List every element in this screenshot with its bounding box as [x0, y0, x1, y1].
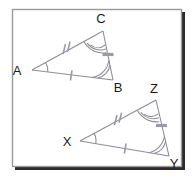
vertex-label-a: A — [13, 63, 22, 78]
geometry-figure: A B C — [0, 0, 194, 180]
vertex-label-y: Y — [170, 156, 179, 171]
vertex-label-z: Z — [150, 81, 158, 96]
vertex-label-c: C — [96, 11, 105, 26]
vertex-label-x: X — [63, 134, 72, 149]
figure-canvas: A B C — [0, 0, 194, 180]
vertex-label-b: B — [114, 80, 123, 95]
